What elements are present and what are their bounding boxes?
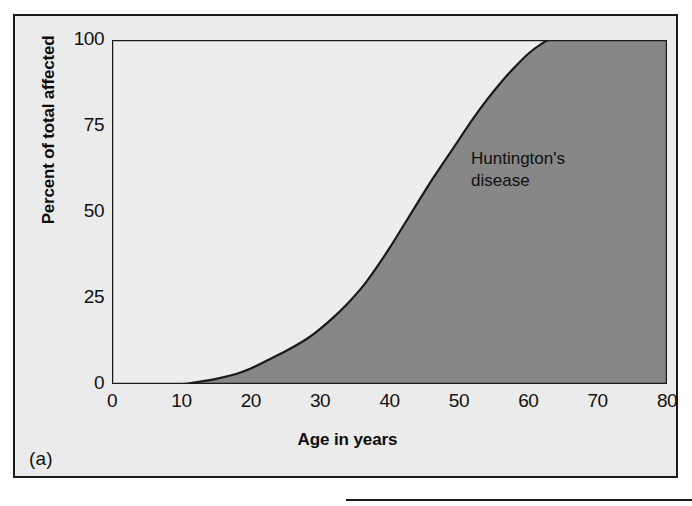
y-tick-label-25: 25	[58, 286, 104, 308]
x-tick-label-60: 60	[504, 390, 552, 412]
curve-annotation-huntingtons-disease: Huntington's disease	[471, 148, 565, 192]
x-tick-label-70: 70	[574, 390, 622, 412]
x-tick-label-80: 80	[643, 390, 691, 412]
panel-label: (a)	[29, 448, 53, 470]
x-tick-label-30: 30	[296, 390, 344, 412]
y-tick-label-100: 100	[58, 28, 104, 50]
x-tick-label-0: 0	[88, 390, 136, 412]
area-chart-svg	[112, 40, 667, 384]
y-tick-label-75: 75	[58, 114, 104, 136]
x-tick-label-20: 20	[227, 390, 275, 412]
x-tick-label-50: 50	[435, 390, 483, 412]
figure-panel-a: Percent of total affected 100 75 50 25 0…	[13, 14, 678, 478]
plot-region: Huntington's disease	[112, 40, 667, 384]
x-tick-label-40: 40	[366, 390, 414, 412]
y-axis-tick-labels: 100 75 50 25 0	[48, 40, 104, 384]
x-tick-label-10: 10	[157, 390, 205, 412]
x-axis-title: Age in years	[15, 430, 680, 450]
y-tick-label-50: 50	[58, 200, 104, 222]
next-panel-top-rule	[346, 499, 692, 501]
x-axis-tick-labels: 0 10 20 30 40 50 60 70 80	[112, 390, 667, 416]
